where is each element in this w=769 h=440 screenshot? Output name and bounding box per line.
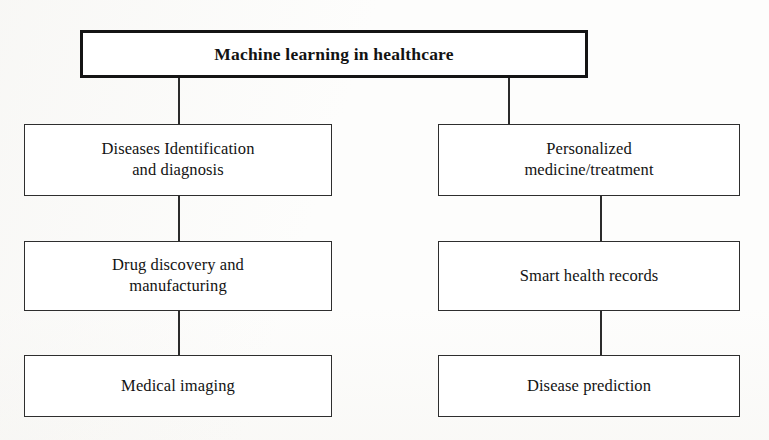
connector-title-to-right-column bbox=[508, 78, 510, 124]
node-left-3-label: Medical imaging bbox=[113, 376, 243, 397]
node-machine-learning-in-healthcare: Machine learning in healthcare bbox=[80, 30, 588, 78]
node-diseases-identification-and-diagnosis: Diseases Identification and diagnosis bbox=[24, 124, 332, 196]
node-title-label: Machine learning in healthcare bbox=[206, 43, 461, 65]
node-left-2-label: Drug discovery and manufacturing bbox=[104, 255, 252, 297]
connector-left-1-to-left-2 bbox=[178, 196, 180, 241]
node-disease-prediction: Disease prediction bbox=[438, 355, 740, 417]
node-personalized-medicine-treatment: Personalized medicine/treatment bbox=[438, 124, 740, 196]
flowchart-diagram: Machine learning in healthcare Diseases … bbox=[0, 0, 769, 440]
node-drug-discovery-and-manufacturing: Drug discovery and manufacturing bbox=[24, 241, 332, 311]
node-smart-health-records: Smart health records bbox=[438, 241, 740, 311]
node-right-1-label: Personalized medicine/treatment bbox=[516, 139, 661, 181]
connector-right-1-to-right-2 bbox=[600, 196, 602, 241]
connector-title-to-left-column bbox=[178, 78, 180, 124]
node-right-2-label: Smart health records bbox=[512, 266, 667, 287]
connector-left-2-to-left-3 bbox=[178, 311, 180, 355]
connector-right-2-to-right-3 bbox=[600, 311, 602, 355]
node-medical-imaging: Medical imaging bbox=[24, 355, 332, 417]
node-right-3-label: Disease prediction bbox=[519, 376, 659, 397]
node-left-1-label: Diseases Identification and diagnosis bbox=[93, 139, 262, 181]
